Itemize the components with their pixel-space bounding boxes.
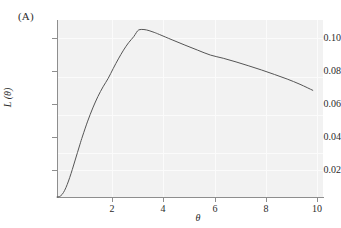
x-axis-tick [215,197,216,202]
gridline-vertical [266,20,267,197]
x-axis-tick [266,197,267,202]
y-axis-tick [52,38,57,39]
gridline-horizontal [57,77,323,78]
gridline-vertical [215,20,216,197]
x-axis-tick [317,197,318,202]
y-axis-tick-label: 0.02 [295,164,341,175]
x-axis-tick [163,197,164,202]
gridline-horizontal [57,115,323,116]
x-axis-label: θ [0,212,341,223]
figure-panel-a: (A) 0.10 0.08 0.06 0.04 0.02 2 4 6 8 10 … [0,0,341,228]
gridline-vertical [163,20,164,197]
panel-label: (A) [18,10,34,22]
gridline-horizontal [57,153,323,154]
y-axis-tick [52,170,57,171]
y-axis-tick-label: 0.06 [295,98,341,109]
y-axis-label: L (θ) [2,88,13,107]
gridline-vertical [112,20,113,197]
y-axis-tick-label: 0.10 [295,32,341,43]
y-axis-line [57,20,58,198]
y-axis-tick-label: 0.08 [295,65,341,76]
y-axis-tick-label: 0.04 [295,131,341,142]
gridline-horizontal [57,38,323,39]
x-axis-tick [112,197,113,202]
y-axis-tick [52,71,57,72]
y-axis-tick [52,137,57,138]
plot-area [57,20,323,197]
gridline-horizontal [57,170,323,171]
x-axis-line [57,197,324,198]
y-axis-tick [52,104,57,105]
